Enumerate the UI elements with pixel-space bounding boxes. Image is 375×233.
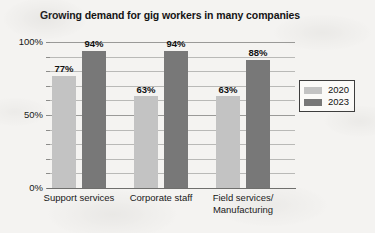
- y-tick-80: [46, 71, 50, 72]
- legend-swatch-2020: [304, 87, 322, 94]
- bar-value-label: 63%: [136, 85, 155, 95]
- legend-item-2020[interactable]: 2020: [304, 84, 349, 96]
- y-tick-70: [46, 86, 50, 87]
- legend-label-2023: 2023: [328, 97, 349, 107]
- bar-group: 63%94%: [134, 42, 188, 188]
- bar-value-label: 63%: [218, 85, 237, 95]
- x-axis-label-line: Support services: [44, 192, 115, 203]
- x-axis-label-line: Corporate staff: [130, 192, 193, 203]
- y-tick-40: [46, 130, 50, 131]
- bar-value-label: 94%: [166, 39, 185, 49]
- y-tick-20: [46, 159, 50, 160]
- y-tick-60: [46, 100, 50, 101]
- bar-chart: Growing demand for gig workers in many c…: [0, 0, 375, 233]
- bar[interactable]: 63%: [134, 96, 158, 188]
- x-axis-line: [47, 188, 296, 189]
- chart-title: Growing demand for gig workers in many c…: [0, 9, 340, 21]
- plot-area: 0%50%100% 77%94%63%94%63%88% Support ser…: [50, 42, 295, 188]
- x-axis-category-label: Field services/Manufacturing: [195, 192, 291, 215]
- bar[interactable]: 94%: [164, 51, 188, 188]
- chart-legend: 2020 2023: [299, 80, 355, 112]
- bar[interactable]: 88%: [246, 60, 270, 188]
- y-axis-label-50: 50%: [24, 110, 43, 120]
- legend-swatch-2023: [304, 99, 322, 106]
- bar-group: 63%88%: [216, 42, 270, 188]
- y-tick-100: [46, 42, 50, 43]
- bar-group: 77%94%: [52, 42, 106, 188]
- bar-value-label: 94%: [84, 39, 103, 49]
- bar[interactable]: 63%: [216, 96, 240, 188]
- bar-value-label: 88%: [248, 48, 267, 58]
- y-tick-30: [46, 144, 50, 145]
- legend-label-2020: 2020: [328, 85, 349, 95]
- y-tick-50: [46, 115, 50, 116]
- y-tick-10: [46, 173, 50, 174]
- bar[interactable]: 94%: [82, 51, 106, 188]
- y-tick-90: [46, 57, 50, 58]
- x-axis-label-line: Field services/: [213, 192, 274, 203]
- legend-item-2023[interactable]: 2023: [304, 96, 349, 108]
- bar-value-label: 77%: [54, 64, 73, 74]
- x-axis-label-line: Manufacturing: [213, 204, 273, 215]
- y-axis-label-100: 100%: [19, 37, 43, 47]
- bar[interactable]: 77%: [52, 76, 76, 188]
